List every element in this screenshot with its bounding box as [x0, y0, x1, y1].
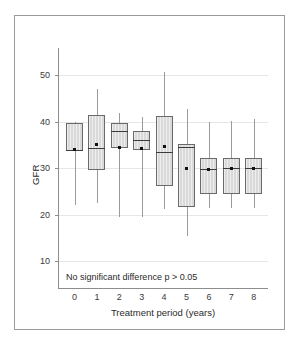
box-body-0 [66, 123, 83, 151]
x-tick-label-1: 1 [89, 293, 105, 302]
mean-marker-8 [252, 167, 255, 170]
x-tick-label-2: 2 [111, 293, 127, 302]
figure-root: GFR Treatment period (years) No signific… [0, 0, 300, 349]
y-tick-label-20: 20 [28, 211, 50, 220]
mean-marker-4 [163, 145, 166, 148]
box-body-7 [223, 158, 240, 194]
y-tick-label-50: 50 [28, 71, 50, 80]
x-axis-line [58, 288, 268, 289]
gridline-y-10 [58, 261, 268, 262]
y-tick-label-10: 10 [28, 257, 50, 266]
median-line-4 [156, 152, 173, 153]
mean-marker-7 [230, 167, 233, 170]
significance-annotation: No significant difference p > 0.05 [66, 272, 197, 282]
y-tick-20 [55, 215, 58, 216]
mean-marker-0 [73, 148, 76, 151]
x-tick-label-4: 4 [156, 293, 172, 302]
median-line-1 [88, 148, 105, 149]
median-line-3 [133, 140, 150, 141]
x-tick-label-7: 7 [223, 293, 239, 302]
mean-marker-3 [140, 147, 143, 150]
x-tick-label-3: 3 [134, 293, 150, 302]
x-axis-title: Treatment period (years) [53, 307, 273, 318]
box-body-8 [245, 158, 262, 194]
mean-marker-1 [95, 143, 98, 146]
x-tick-label-0: 0 [67, 293, 83, 302]
y-tick-10 [55, 261, 58, 262]
y-tick-label-30: 30 [28, 164, 50, 173]
mean-marker-5 [185, 167, 188, 170]
x-tick-label-8: 8 [246, 293, 262, 302]
median-line-2 [111, 131, 128, 132]
boxplot-chart: GFR Treatment period (years) No signific… [0, 0, 300, 349]
y-tick-40 [55, 122, 58, 123]
x-tick-label-5: 5 [179, 293, 195, 302]
y-tick-30 [55, 168, 58, 169]
box-body-5 [178, 144, 195, 206]
gridline-y-20 [58, 215, 268, 216]
box-body-6 [200, 158, 217, 194]
median-line-5 [178, 147, 195, 148]
y-tick-50 [55, 75, 58, 76]
y-tick-label-40: 40 [28, 118, 50, 127]
gridline-y-50 [58, 75, 268, 76]
x-tick-label-6: 6 [201, 293, 217, 302]
mean-marker-6 [207, 168, 210, 171]
mean-marker-2 [118, 146, 121, 149]
y-axis-line [58, 48, 59, 288]
box-body-2 [111, 123, 128, 148]
